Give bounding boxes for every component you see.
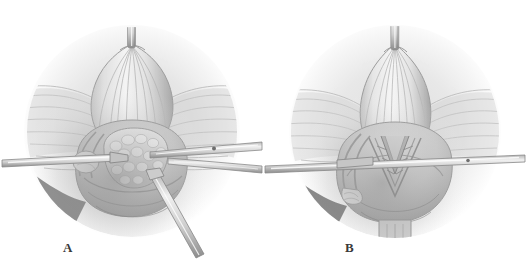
panel-label-b: B [345,241,354,254]
panel-label-a: A [63,241,73,254]
figure-root: A [0,0,527,273]
panel-a: A [0,0,264,273]
panel-b: B [263,0,527,273]
